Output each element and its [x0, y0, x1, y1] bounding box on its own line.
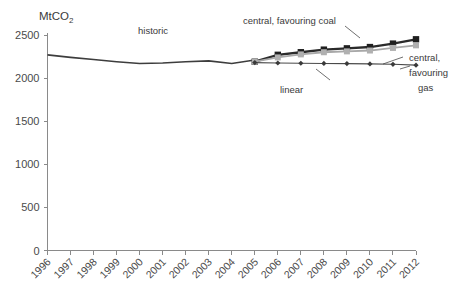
- x-tick-label: 2008: [304, 255, 329, 280]
- x-tick-label: 1999: [97, 255, 122, 280]
- annotation-central-gas-line1: central,: [409, 52, 440, 63]
- chart-series-group: [48, 36, 420, 68]
- y-axis-unit-label: MtCO2: [39, 10, 74, 25]
- data-point-marker: [321, 61, 326, 66]
- data-point-marker: [275, 54, 281, 60]
- data-point-marker: [390, 62, 395, 67]
- x-tick-label: 2001: [143, 255, 168, 280]
- data-point-marker: [344, 48, 350, 54]
- x-tick-label: 2006: [258, 255, 283, 280]
- emissions-projection-chart: MtCO2 05001000150020002500 1996199719981…: [0, 0, 453, 301]
- x-tick-label: 2004: [212, 255, 237, 280]
- data-point-marker: [413, 42, 419, 48]
- series-line-historic: [48, 55, 255, 64]
- x-tick-label: 1998: [74, 255, 99, 280]
- annotation-central-favouring-coal: central, favouring coal: [243, 15, 336, 26]
- annotation-leaders: [316, 26, 410, 80]
- x-tick-label: 2007: [281, 255, 306, 280]
- leader-coal: [345, 26, 360, 38]
- y-tick-label: 1000: [15, 158, 39, 170]
- data-point-marker: [321, 49, 327, 55]
- data-point-marker: [298, 51, 304, 57]
- y-tick-label: 0: [33, 245, 39, 257]
- x-tick-label: 2009: [327, 255, 352, 280]
- x-tick-label: 1996: [28, 255, 53, 280]
- x-tick-label: 2010: [350, 255, 375, 280]
- data-point-marker: [344, 61, 349, 66]
- y-axis-unit-subscript: 2: [69, 16, 74, 25]
- y-tick-label: 2000: [15, 72, 39, 84]
- x-tick-label: 2012: [396, 255, 421, 280]
- y-axis-unit-main: MtCO: [39, 10, 69, 22]
- data-point-marker: [275, 60, 280, 65]
- x-tick-label: 2002: [166, 255, 191, 280]
- y-tick-label: 2500: [15, 29, 39, 41]
- x-axis-ticks: 1996199719981999200020012002200320042005…: [28, 251, 422, 281]
- x-tick-label: 2003: [189, 255, 214, 280]
- y-tick-label: 1500: [15, 115, 39, 127]
- data-point-marker: [367, 61, 372, 66]
- data-point-marker: [390, 45, 396, 51]
- x-tick-label: 1997: [51, 255, 76, 280]
- leader-linear: [316, 69, 330, 80]
- data-point-marker: [298, 61, 303, 66]
- x-tick-label: 2005: [235, 255, 260, 280]
- y-axis-ticks: 05001000150020002500: [15, 29, 47, 257]
- annotation-central-gas-line2: favouring: [409, 67, 448, 78]
- annotation-linear: linear: [280, 84, 303, 95]
- annotation-central-gas-line3: gas: [418, 82, 434, 93]
- x-tick-label: 2011: [374, 255, 399, 280]
- y-tick-label: 500: [21, 201, 39, 213]
- annotation-historic: historic: [138, 25, 168, 36]
- data-point-marker: [367, 48, 373, 54]
- x-tick-label: 2000: [120, 255, 145, 280]
- data-point-marker: [413, 36, 419, 42]
